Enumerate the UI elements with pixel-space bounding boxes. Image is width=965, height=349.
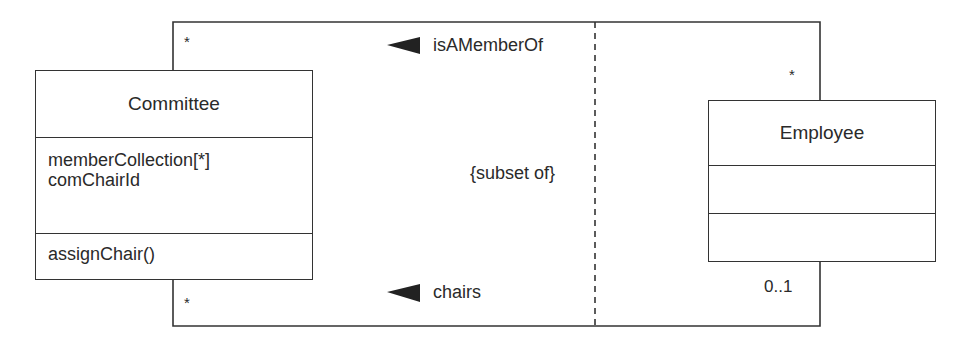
class-name: Employee xyxy=(780,122,865,144)
association-name-isamemberof: isAMemberOf xyxy=(433,35,543,56)
operations-compartment: assignChair() xyxy=(36,234,312,278)
attribute: comChairId xyxy=(48,170,312,190)
class-name-compartment: Committee xyxy=(36,71,312,138)
attribute: memberCollection[*] xyxy=(48,150,312,170)
operations-compartment xyxy=(709,214,935,260)
multiplicity-committee-chairs: * xyxy=(184,294,190,311)
arrow-left-icon xyxy=(387,284,420,302)
multiplicity-committee-isamemberof: * xyxy=(184,33,190,50)
association-name-chairs: chairs xyxy=(433,282,481,303)
attributes-compartment: memberCollection[*] comChairId xyxy=(36,138,312,234)
class-committee[interactable]: Committee memberCollection[*] comChairId… xyxy=(35,70,313,280)
subset-constraint-label: {subset of} xyxy=(470,163,555,184)
class-name-compartment: Employee xyxy=(709,101,935,166)
multiplicity-employee-chairs: 0..1 xyxy=(764,277,792,297)
class-name: Committee xyxy=(128,93,220,115)
class-employee[interactable]: Employee xyxy=(708,100,936,262)
operation: assignChair() xyxy=(48,244,312,265)
multiplicity-employee-isamemberof: * xyxy=(789,66,795,83)
arrow-left-icon xyxy=(387,37,420,54)
attributes-compartment xyxy=(709,166,935,214)
